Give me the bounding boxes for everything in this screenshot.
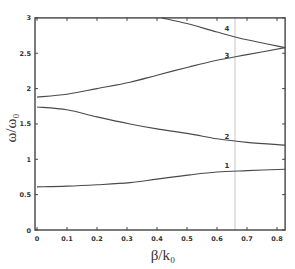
x-tick-label: 0.3	[121, 235, 133, 243]
x-tick-label: 0.2	[91, 235, 103, 243]
y-axis-label: ω/ω₀	[3, 113, 19, 142]
y-tick-label: 1.5	[19, 120, 31, 128]
x-tick-label: 0.8	[271, 235, 283, 243]
y-tick-label: 0.5	[19, 191, 31, 199]
y-tick-label: 2.5	[19, 50, 31, 58]
curve-3	[37, 48, 285, 97]
plot-frame	[35, 18, 285, 230]
x-tick-label: 0	[35, 235, 40, 243]
plot-area: 00.10.20.30.40.50.60.70.800.511.522.5343…	[19, 14, 285, 243]
dispersion-chart: 00.10.20.30.40.50.60.70.800.511.522.5343…	[0, 0, 295, 269]
x-tick-label: 0.6	[211, 235, 223, 243]
curve-2	[37, 107, 285, 145]
x-axis-label: β/k₀	[151, 247, 176, 263]
y-tick-label: 0	[26, 227, 31, 235]
x-tick-label: 0.5	[181, 235, 193, 243]
y-tick-label: 2	[26, 85, 31, 93]
y-tick-label: 1	[26, 156, 31, 164]
x-tick-label: 0.7	[241, 235, 253, 243]
curve-label-3: 3	[225, 52, 230, 60]
curve-1	[37, 169, 285, 187]
curve-label-2: 2	[225, 133, 230, 141]
x-tick-label: 0.4	[151, 235, 163, 243]
curve-label-1: 1	[225, 162, 230, 170]
curve-label-4: 4	[225, 25, 230, 33]
y-tick-label: 3	[26, 14, 31, 22]
x-tick-label: 0.1	[61, 235, 73, 243]
